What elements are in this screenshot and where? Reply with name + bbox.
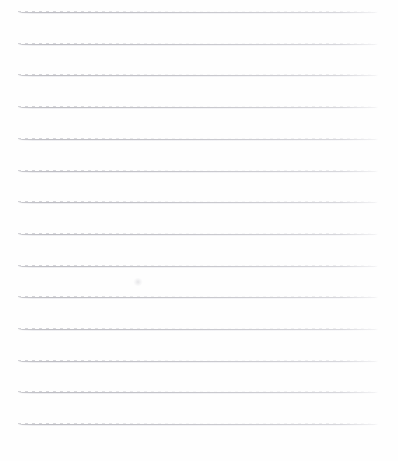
ruled-line-bleed	[18, 393, 378, 394]
ruled-line	[18, 423, 378, 426]
ruled-line-stroke	[18, 297, 378, 298]
ruled-line-bleed	[18, 235, 378, 236]
ruled-line-bleed	[18, 425, 378, 426]
ruled-line-bleed	[18, 330, 378, 331]
ruled-line	[18, 11, 378, 14]
ruled-line-texture	[18, 170, 378, 171]
ruled-line	[18, 296, 378, 299]
ruled-line-bleed	[18, 203, 378, 204]
ruled-line	[18, 233, 378, 236]
ruled-line-texture	[18, 423, 378, 424]
faint-smudge	[133, 278, 143, 286]
ruled-line-texture	[18, 328, 378, 329]
ruled-line	[18, 265, 378, 268]
ruled-line-texture	[18, 11, 378, 12]
ruled-line	[18, 360, 378, 363]
ruled-line-texture	[18, 201, 378, 202]
ruled-line-bleed	[18, 267, 378, 268]
ruled-line	[18, 106, 378, 109]
ruled-line-stroke	[18, 266, 378, 267]
ruled-line-bleed	[18, 362, 378, 363]
lined-paper-page	[0, 0, 398, 461]
ruled-line-bleed	[18, 108, 378, 109]
ruled-line-texture	[18, 74, 378, 75]
ruled-line-texture	[18, 43, 378, 44]
ruled-line-stroke	[18, 75, 378, 76]
ruled-line-stroke	[18, 139, 378, 140]
ruled-line-bleed	[18, 45, 378, 46]
ruled-line-bleed	[18, 13, 378, 14]
ruled-line-stroke	[18, 361, 378, 362]
ruled-line-texture	[18, 265, 378, 266]
ruled-line-texture	[18, 106, 378, 107]
ruled-line-stroke	[18, 12, 378, 13]
ruled-line	[18, 201, 378, 204]
ruled-line-stroke	[18, 171, 378, 172]
ruled-line-bleed	[18, 298, 378, 299]
ruled-line	[18, 391, 378, 394]
ruled-line	[18, 138, 378, 141]
ruled-line-bleed	[18, 76, 378, 77]
ruled-line-bleed	[18, 172, 378, 173]
ruled-line	[18, 328, 378, 331]
ruled-line	[18, 43, 378, 46]
ruled-line-stroke	[18, 424, 378, 425]
ruled-line-texture	[18, 233, 378, 234]
ruled-line	[18, 74, 378, 77]
ruled-line-stroke	[18, 329, 378, 330]
ruled-line-texture	[18, 296, 378, 297]
ruled-line-stroke	[18, 107, 378, 108]
ruled-line-texture	[18, 391, 378, 392]
ruled-line-texture	[18, 360, 378, 361]
ruled-line	[18, 170, 378, 173]
ruled-line-texture	[18, 138, 378, 139]
ruled-line-stroke	[18, 202, 378, 203]
ruled-line-stroke	[18, 234, 378, 235]
ruled-line-stroke	[18, 392, 378, 393]
ruled-line-stroke	[18, 44, 378, 45]
ruled-line-bleed	[18, 140, 378, 141]
